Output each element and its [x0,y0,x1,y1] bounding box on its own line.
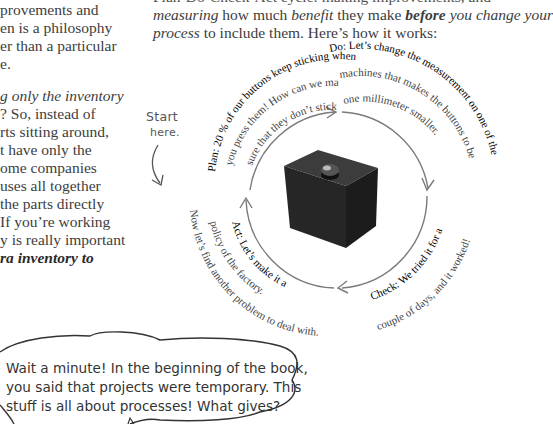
plan-line-3: sure that they don’t stick? [0,0,337,167]
bubble-line-1: Wait a minute! In the beginning of the b… [6,359,308,378]
button-cube-image [284,150,378,248]
plan-text-line-2: you press them! How can we make [0,0,339,167]
speech-bubble-text: Wait a minute! In the beginning of the b… [6,359,308,416]
plan-label: Plan: [205,147,221,172]
plan-text-line-3: sure that they don’t stick? [0,0,337,167]
start-arrow-icon [152,145,160,183]
bubble-line-2: you said that projects were temporary. T… [6,378,308,397]
plan-line-2: you press them! How can we make [0,0,339,167]
arrowhead-icon [422,178,434,190]
check-label: Check: [369,278,401,302]
bubble-line-3: stuff is all about processes! What gives… [6,397,308,416]
